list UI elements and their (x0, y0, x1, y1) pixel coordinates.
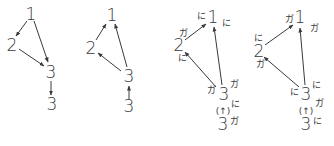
arrow-3-to-2 (264, 57, 299, 87)
particle-ga: ガ (256, 60, 265, 69)
optional-up-arrow: (↑) (216, 106, 231, 116)
particle-ni: に (178, 54, 187, 63)
particle-ga: ガ (179, 29, 188, 38)
particle-ni: に (222, 19, 231, 28)
node-1: 1 (107, 7, 118, 24)
arrow-3-to-2 (185, 52, 216, 87)
particle-ga: ガ (230, 117, 239, 126)
particle-ni: に (313, 117, 322, 126)
particle-ni: に (312, 81, 321, 90)
node-3: 3 (301, 86, 312, 103)
particle-ga: ガ (230, 80, 239, 89)
particle-ga: ガ (207, 86, 216, 95)
node-3-lower: 3 (301, 116, 312, 133)
arrow-2-to-1 (265, 25, 293, 45)
particle-ni: に (290, 88, 299, 97)
node-2: 2 (254, 43, 265, 60)
node-1: 1 (208, 9, 219, 26)
arrow-3-to-2 (98, 53, 121, 71)
arrow-3-to-1 (300, 28, 305, 85)
node-3-lower: 3 (47, 96, 58, 113)
dependency-diagrams: 1 2 3 3 1 2 3 3 1 2 3 3 に に ガ に ガ ガ に ガ … (0, 0, 334, 146)
arrow-2-to-3 (19, 49, 44, 66)
node-2: 2 (86, 40, 97, 57)
arrow-3-to-1 (115, 24, 127, 67)
arrow-2-to-1 (96, 24, 106, 40)
particle-ni: に (231, 100, 240, 109)
optional-up-arrow: (↑) (299, 106, 314, 116)
arrow-3-to-1 (214, 27, 222, 85)
arrow-2-to-1 (185, 24, 206, 40)
node-2: 2 (174, 37, 185, 54)
arrow-1-to-3 (34, 21, 48, 62)
node-1: 1 (295, 9, 306, 26)
particle-ni: に (197, 12, 206, 21)
node-3-lower: 3 (218, 116, 229, 133)
particle-ni: に (254, 34, 263, 43)
node-2: 2 (7, 37, 18, 54)
node-3: 3 (124, 68, 135, 85)
particle-ga: ガ (285, 15, 294, 24)
node-3: 3 (46, 64, 57, 81)
particle-ga: ガ (315, 99, 324, 108)
node-3: 3 (219, 86, 230, 103)
particle-ga: ガ (310, 24, 319, 33)
node-1: 1 (26, 6, 37, 23)
node-3-lower: 3 (124, 98, 135, 115)
